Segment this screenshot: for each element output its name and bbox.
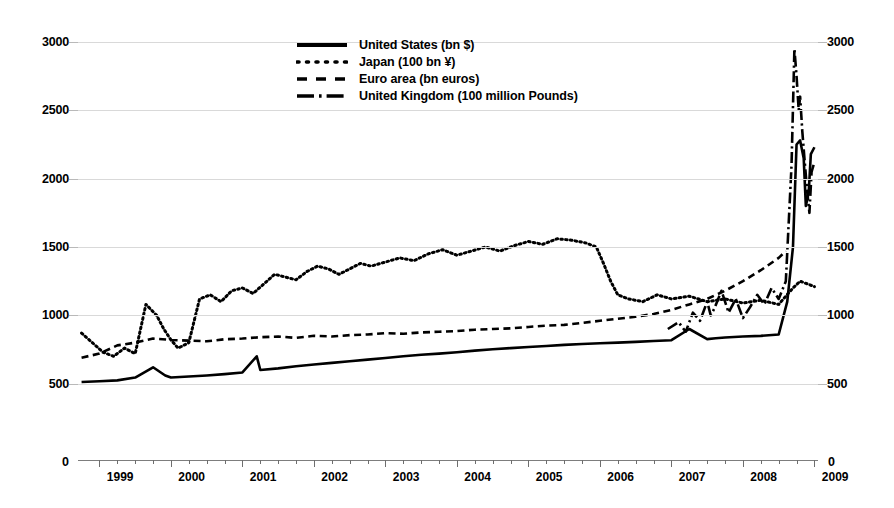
x-axis-tick-minor	[779, 460, 780, 464]
x-axis-tick-major	[171, 460, 172, 467]
x-axis-tick-major	[528, 460, 529, 467]
y-axis-label-right: 500	[818, 377, 847, 391]
chart-legend: United States (bn $)Japan (100 bn ¥)Euro…	[296, 36, 578, 104]
chart-figure: 5005001000100015001500200020002500250030…	[0, 0, 894, 508]
legend-line-swatch	[296, 56, 348, 68]
gridline	[78, 179, 818, 180]
legend-item[interactable]: Euro area (bn euros)	[296, 70, 578, 87]
x-axis-tick-minor	[403, 460, 404, 464]
x-axis-label: 2001	[250, 470, 277, 484]
x-axis: 1999200020012002200320042005200620072008…	[78, 460, 818, 461]
legend-item[interactable]: United States (bn $)	[296, 36, 578, 53]
x-axis-tick-major	[242, 460, 243, 467]
x-axis-tick-major	[600, 460, 601, 467]
y-axis-label-right: 1500	[818, 240, 854, 254]
x-axis-tick-minor	[707, 460, 708, 464]
x-axis-tick-minor	[475, 460, 476, 464]
gridline	[78, 384, 818, 385]
x-axis-tick-minor	[421, 460, 422, 464]
y-axis-label-right: 3000	[818, 35, 854, 49]
x-axis-tick-minor	[493, 460, 494, 464]
legend-line-swatch	[296, 39, 348, 51]
gridline	[78, 247, 818, 248]
x-axis-label: 2008	[750, 470, 777, 484]
x-axis-tick-minor	[189, 460, 190, 464]
x-axis-tick-major	[671, 460, 672, 467]
legend-item-label: Euro area (bn euros)	[359, 72, 479, 86]
x-axis-tick-major	[99, 460, 100, 467]
x-axis-tick-minor	[654, 460, 655, 464]
x-axis-tick-minor	[618, 460, 619, 464]
x-axis-tick-minor	[582, 460, 583, 464]
x-axis-label: 2000	[178, 470, 205, 484]
x-axis-tick-major	[385, 460, 386, 467]
x-axis-tick-minor	[350, 460, 351, 464]
y-axis-label-left: 2500	[42, 103, 78, 117]
y-axis-label-right: 1000	[818, 308, 854, 322]
x-axis-tick-minor	[260, 460, 261, 464]
x-axis-label: 2005	[536, 470, 563, 484]
x-axis-tick-major	[457, 460, 458, 467]
x-axis-tick-minor	[153, 460, 154, 464]
x-axis-tick-major	[314, 460, 315, 467]
x-axis-label: 2009	[822, 470, 849, 484]
x-axis-tick-minor	[546, 460, 547, 464]
x-axis-tick-minor	[368, 460, 369, 464]
y-axis-zero-label-left: 0	[62, 455, 69, 469]
y-axis-label-left: 1500	[42, 240, 78, 254]
y-axis-label-right: 2000	[818, 172, 854, 186]
legend-item-label: Japan (100 bn ¥)	[359, 55, 455, 69]
y-axis-label-left: 2000	[42, 172, 78, 186]
legend-item-label: United Kingdom (100 million Pounds)	[359, 89, 578, 103]
x-axis-label: 2006	[607, 470, 634, 484]
x-axis-tick-minor	[439, 460, 440, 464]
x-axis-tick-minor	[564, 460, 565, 464]
x-axis-tick-minor	[296, 460, 297, 464]
x-axis-tick-minor	[797, 460, 798, 464]
x-axis-label: 1999	[107, 470, 134, 484]
gridline	[78, 315, 818, 316]
x-axis-tick-minor	[511, 460, 512, 464]
legend-item[interactable]: United Kingdom (100 million Pounds)	[296, 87, 578, 104]
series-line	[82, 140, 815, 382]
x-axis-tick-minor	[207, 460, 208, 464]
x-axis-tick-major	[814, 460, 815, 467]
x-axis-tick-minor	[725, 460, 726, 464]
y-axis-label-left: 500	[49, 377, 78, 391]
gridline	[78, 110, 818, 111]
x-axis-tick-minor	[225, 460, 226, 464]
y-axis-zero-label-right: 0	[828, 455, 835, 469]
x-axis-label: 2007	[679, 470, 706, 484]
x-axis-tick-minor	[117, 460, 118, 464]
x-axis-label: 2002	[321, 470, 348, 484]
series-line	[82, 251, 786, 358]
x-axis-tick-minor	[332, 460, 333, 464]
x-axis-tick-minor	[135, 460, 136, 464]
x-axis-tick-minor	[636, 460, 637, 464]
y-axis-label-left: 3000	[42, 35, 78, 49]
x-axis-tick-minor	[689, 460, 690, 464]
legend-item-label: United States (bn $)	[359, 38, 474, 52]
y-axis-label-right: 2500	[818, 103, 854, 117]
x-axis-tick-minor	[761, 460, 762, 464]
legend-item[interactable]: Japan (100 bn ¥)	[296, 53, 578, 70]
y-axis-label-left: 1000	[42, 308, 78, 322]
legend-line-swatch	[296, 90, 348, 102]
x-axis-label: 2003	[393, 470, 420, 484]
x-axis-tick-major	[743, 460, 744, 467]
x-axis-tick-minor	[278, 460, 279, 464]
x-axis-label: 2004	[464, 470, 491, 484]
legend-line-swatch	[296, 73, 348, 85]
